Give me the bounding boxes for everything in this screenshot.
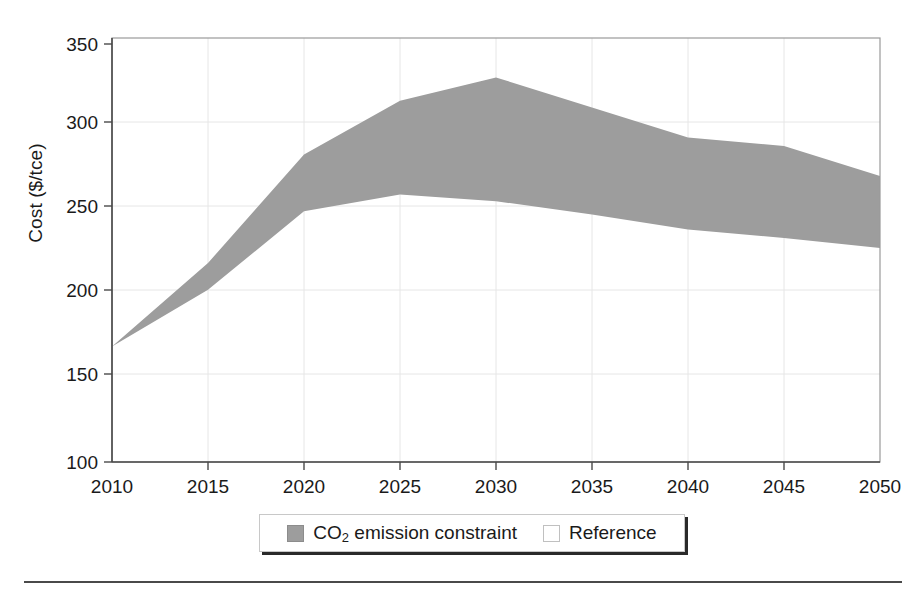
x-tick-label-2030: 2030	[461, 477, 531, 496]
legend-label-lead: CO	[313, 522, 342, 543]
x-tick-label-2040: 2040	[653, 477, 723, 496]
y-tick-marks	[104, 44, 112, 462]
legend-item-co2-emission-constraint[interactable]: CO2 emission constraint	[287, 522, 517, 544]
chart-plot-area: Cost ($/tce) 350 300 250 200 150 100 201…	[0, 0, 923, 500]
x-tick-label-2015: 2015	[173, 477, 243, 496]
x-tick-label-2045: 2045	[749, 477, 819, 496]
filled-square-icon	[287, 525, 304, 542]
x-tick-label-2010: 2010	[77, 477, 147, 496]
footer-divider	[24, 581, 902, 583]
x-tick-marks	[208, 462, 784, 470]
y-axis-title: Cost ($/tce)	[25, 93, 47, 293]
y-tick-label-100: 100	[50, 453, 98, 472]
y-axis-title-text: Cost ($/tce)	[25, 143, 46, 242]
cost-band-chart	[0, 0, 923, 500]
chart-legend: CO2 emission constraint Reference	[259, 514, 685, 552]
legend-item-reference[interactable]: Reference	[543, 522, 657, 544]
legend-label-subscript: 2	[342, 530, 349, 545]
y-tick-label-150: 150	[50, 365, 98, 384]
y-tick-label-250: 250	[50, 197, 98, 216]
x-tick-label-2020: 2020	[269, 477, 339, 496]
y-tick-label-350: 350	[50, 35, 98, 54]
x-tick-label-2035: 2035	[557, 477, 627, 496]
figure-container: Cost ($/tce) 350 300 250 200 150 100 201…	[0, 0, 923, 597]
legend-label-co2-emission-constraint: CO2 emission constraint	[313, 522, 517, 544]
y-tick-label-200: 200	[50, 281, 98, 300]
y-tick-label-300: 300	[50, 113, 98, 132]
x-tick-label-2050: 2050	[845, 477, 915, 496]
legend-label-tail: emission constraint	[349, 522, 517, 543]
hollow-square-icon	[543, 525, 560, 542]
legend-label-reference: Reference	[569, 522, 657, 544]
x-tick-label-2025: 2025	[365, 477, 435, 496]
